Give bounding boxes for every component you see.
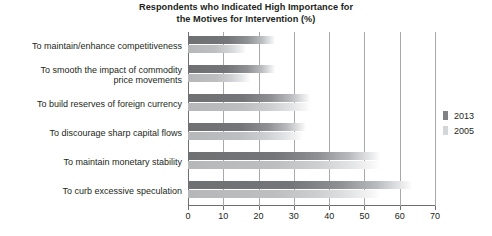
bar-2013	[188, 94, 310, 102]
legend-item-2013[interactable]: 2013	[443, 108, 474, 123]
gridline-70	[435, 32, 436, 206]
legend-item-2005[interactable]: 2005	[443, 123, 474, 138]
bar-row	[188, 177, 435, 206]
chart-title: Respondents who Indicated High Importanc…	[96, 2, 396, 25]
x-tick-70	[435, 206, 436, 210]
x-tick-label-60: 60	[395, 211, 405, 221]
chart-legend: 2013 2005	[443, 108, 474, 138]
x-tick-label-30: 30	[289, 211, 299, 221]
x-tick-50	[364, 206, 365, 210]
x-tick-40	[329, 206, 330, 210]
x-tick-label-0: 0	[185, 211, 190, 221]
bar-2005	[188, 74, 250, 82]
x-tick-10	[223, 206, 224, 210]
x-tick-20	[259, 206, 260, 210]
bar-row	[188, 61, 435, 90]
x-tick-0	[188, 206, 189, 210]
bar-2005	[188, 132, 303, 140]
x-tick-label-70: 70	[430, 211, 440, 221]
chart-title-line-1: Respondents who Indicated High Importanc…	[96, 2, 396, 14]
legend-label-2005: 2005	[454, 126, 474, 136]
legend-label-2013: 2013	[454, 111, 474, 121]
x-tick-label-40: 40	[324, 211, 334, 221]
category-label: To smooth the impact of commodity price …	[0, 65, 182, 86]
bar-2005	[188, 103, 310, 111]
legend-swatch-2005-icon	[443, 126, 448, 135]
x-tick-30	[294, 206, 295, 210]
category-label: To discourage sharp capital flows	[0, 128, 182, 139]
chart-figure: Respondents who Indicated High Importanc…	[0, 0, 492, 236]
x-tick-label-50: 50	[359, 211, 369, 221]
x-tick-60	[400, 206, 401, 210]
bar-2005	[188, 45, 246, 53]
category-label: To maintain monetary stability	[0, 157, 182, 168]
bar-row	[188, 119, 435, 148]
category-label: To build reserves of foreign currency	[0, 99, 182, 110]
category-label: To maintain/enhance competitiveness	[0, 41, 182, 52]
bar-2013	[188, 181, 412, 189]
bar-2013	[188, 65, 275, 73]
bar-row	[188, 90, 435, 119]
x-tick-label-10: 10	[218, 211, 228, 221]
bar-2013	[188, 123, 306, 131]
bar-2013	[188, 152, 380, 160]
plot-area	[188, 32, 435, 206]
x-tick-label-20: 20	[254, 211, 264, 221]
category-label: To curb excessive speculation	[0, 186, 182, 197]
bar-row	[188, 32, 435, 61]
bar-2013	[188, 36, 275, 44]
chart-title-line-2: the Motives for Intervention (%)	[96, 14, 396, 26]
bar-row	[188, 148, 435, 177]
legend-swatch-2013-icon	[443, 111, 448, 120]
bar-2005	[188, 190, 380, 198]
bar-2005	[188, 161, 380, 169]
